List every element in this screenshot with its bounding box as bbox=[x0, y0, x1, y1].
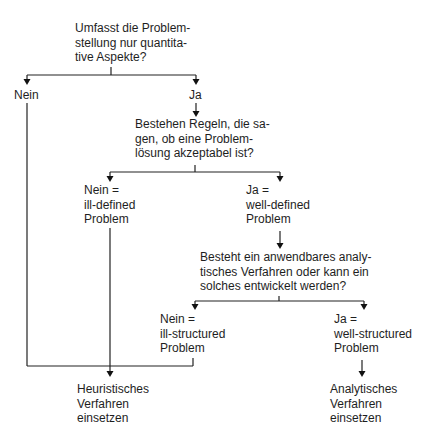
question-analytic-procedure: Besteht ein anwendbares analy- tisches V… bbox=[200, 250, 371, 294]
answer-yes-quantitative: Ja bbox=[189, 88, 202, 103]
result-analytic-procedure: Analytisches Verfahren einsetzen bbox=[330, 382, 397, 426]
question-quantitative-aspects: Umfasst die Problem- stellung nur quanti… bbox=[75, 21, 190, 65]
result-heuristic-procedure: Heuristisches Verfahren einsetzen bbox=[77, 382, 149, 426]
question-acceptance-rules: Bestehen Regeln, die sa- gen, ob eine Pr… bbox=[135, 117, 270, 161]
arrow-down-icon bbox=[277, 243, 284, 249]
arrow-down-icon bbox=[107, 371, 114, 377]
answer-no-quantitative: Nein bbox=[14, 88, 39, 103]
arrow-down-icon bbox=[107, 176, 114, 182]
arrow-down-icon bbox=[359, 371, 366, 377]
flowchart-connectors bbox=[0, 0, 432, 437]
answer-ill-structured-problem: Nein = ill-structured Problem bbox=[160, 312, 225, 356]
answer-well-structured-problem: Ja = well-structured Problem bbox=[334, 312, 412, 356]
arrow-down-icon bbox=[193, 79, 200, 85]
arrow-down-icon bbox=[277, 176, 284, 182]
answer-ill-defined-problem: Nein = ill-defined Problem bbox=[84, 183, 135, 227]
arrow-down-icon bbox=[361, 304, 368, 310]
arrow-down-icon bbox=[192, 304, 199, 310]
arrow-down-icon bbox=[24, 79, 31, 85]
answer-well-defined-problem: Ja = well-defined Problem bbox=[246, 183, 310, 227]
